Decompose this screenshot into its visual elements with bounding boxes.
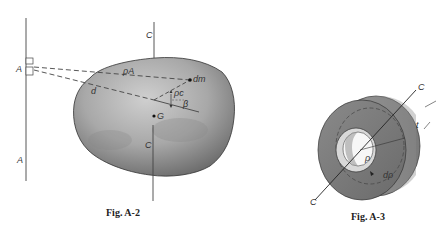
axis-c-label-top: C <box>418 82 425 92</box>
mass-element-dot <box>188 78 192 82</box>
axis-a-marker <box>26 58 33 64</box>
thickness-arrow <box>424 122 430 129</box>
radius-label: ρ <box>364 153 370 163</box>
centroid-dot <box>152 114 155 117</box>
rho-c-label: ρc <box>173 88 184 98</box>
axis-c-label-bottom: C <box>310 197 317 207</box>
diagram-canvas: A A C C ρA d ρc β dm G Fig. A-2 <box>0 0 447 226</box>
axis-a-marker <box>26 67 33 75</box>
axis-c-label-bottom: C <box>145 140 152 150</box>
figure-a2: A A C C ρA d ρc β dm G Fig. A-2 <box>15 18 235 218</box>
mass-element-label: dm <box>193 74 206 84</box>
radius-increment-label: dρ <box>383 170 393 180</box>
figure-caption: Fig. A-3 <box>351 211 385 222</box>
axis-a-label-bottom: A <box>16 155 23 165</box>
thickness-arrow <box>425 101 436 107</box>
figure-caption: Fig. A-2 <box>106 207 140 218</box>
body-shading <box>152 118 208 142</box>
thickness-label: t <box>416 120 419 130</box>
beta-label: β <box>182 99 188 109</box>
rho-a-label: ρA <box>122 66 134 76</box>
centroid-label: G <box>157 111 164 121</box>
axis-c-label-top: C <box>146 30 153 40</box>
axis-a-label-top: A <box>15 64 22 74</box>
body-shading <box>88 130 132 150</box>
figure-a3: C C t ρ dρ Fig. A-3 <box>310 82 436 222</box>
